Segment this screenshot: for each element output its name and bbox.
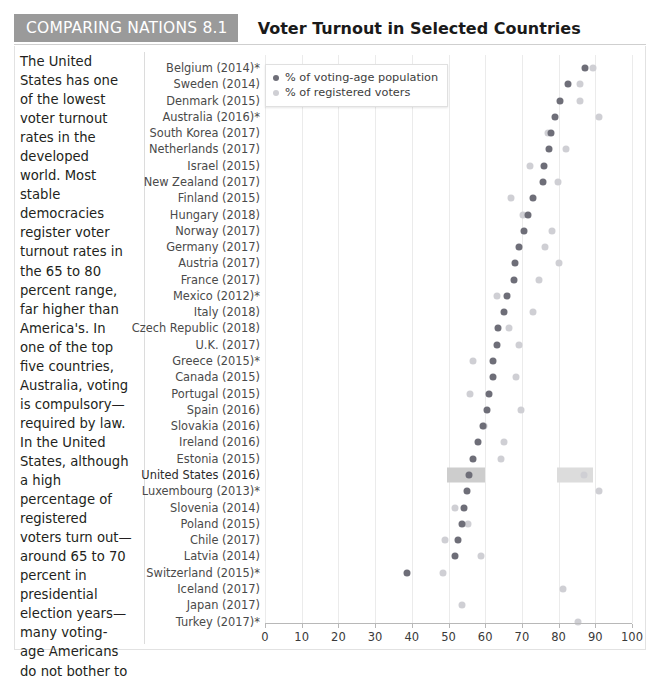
gridline-40 bbox=[412, 55, 413, 623]
data-point-rv bbox=[466, 390, 473, 397]
x-tick-20 bbox=[338, 624, 339, 628]
category-label: Poland (2015) bbox=[180, 517, 260, 531]
data-point-vap bbox=[511, 276, 518, 283]
data-point-vap bbox=[466, 472, 473, 479]
legend-label-vap: % of voting-age population bbox=[285, 70, 438, 85]
category-label: South Korea (2017) bbox=[149, 126, 260, 140]
x-tick-10 bbox=[302, 624, 303, 628]
data-point-rv bbox=[595, 113, 602, 120]
data-point-vap bbox=[547, 130, 554, 137]
data-point-rv bbox=[516, 341, 523, 348]
data-point-rv bbox=[554, 178, 561, 185]
category-label: United States (2016) bbox=[141, 468, 260, 482]
category-label: Portugal (2015) bbox=[171, 387, 260, 401]
x-tick-label-20: 20 bbox=[331, 630, 346, 644]
category-label: Hungary (2018) bbox=[170, 208, 260, 222]
data-point-rv bbox=[506, 325, 513, 332]
gridline-80 bbox=[559, 55, 560, 623]
data-point-vap bbox=[582, 65, 589, 72]
x-tick-40 bbox=[412, 624, 413, 628]
data-point-vap bbox=[524, 211, 531, 218]
data-point-rv bbox=[596, 488, 603, 495]
gridline-20 bbox=[338, 55, 339, 623]
x-tick-label-80: 80 bbox=[551, 630, 566, 644]
page-title: Voter Turnout in Selected Countries bbox=[238, 14, 646, 42]
category-label: Sweden (2014) bbox=[173, 77, 260, 91]
data-point-vap bbox=[489, 358, 496, 365]
category-label: Germany (2017) bbox=[166, 240, 260, 254]
category-label: Australia (2016)* bbox=[162, 110, 260, 124]
plot-area: Belgium (2014)*Sweden (2014)Denmark (201… bbox=[265, 55, 632, 647]
highlight-band-rv bbox=[557, 468, 594, 483]
data-point-vap bbox=[551, 113, 558, 120]
data-point-vap bbox=[565, 81, 572, 88]
data-point-rv bbox=[560, 585, 567, 592]
data-point-vap bbox=[489, 374, 496, 381]
category-label: Chile (2017) bbox=[190, 533, 260, 547]
data-point-vap bbox=[460, 504, 467, 511]
category-label: Canada (2015) bbox=[175, 370, 260, 384]
data-point-rv bbox=[576, 81, 583, 88]
data-point-vap bbox=[464, 488, 471, 495]
x-tick-label-30: 30 bbox=[368, 630, 383, 644]
commentary-body: The United States has one of the lowest … bbox=[20, 52, 132, 681]
data-point-rv bbox=[497, 455, 504, 462]
legend-item-rv: % of registered voters bbox=[273, 85, 438, 100]
x-tick-label-40: 40 bbox=[404, 630, 419, 644]
gridline-70 bbox=[522, 55, 523, 623]
category-label: Luxembourg (2013)* bbox=[142, 484, 260, 498]
data-point-vap bbox=[504, 292, 511, 299]
data-point-rv bbox=[439, 569, 446, 576]
legend-dot-vap-icon bbox=[273, 75, 279, 81]
data-point-rv bbox=[577, 97, 584, 104]
gridline-100 bbox=[632, 55, 633, 623]
data-point-rv bbox=[580, 472, 587, 479]
category-label: Japan (2017) bbox=[187, 598, 260, 612]
data-point-rv bbox=[459, 602, 466, 609]
header-divider bbox=[14, 44, 646, 45]
x-tick-60 bbox=[485, 624, 486, 628]
category-label: Switzerland (2015)* bbox=[146, 566, 260, 580]
category-label: Latvia (2014) bbox=[184, 549, 260, 563]
gridline-10 bbox=[302, 55, 303, 623]
comparing-nations-figure: COMPARING NATIONS 8.1 Voter Turnout in S… bbox=[0, 0, 660, 681]
x-tick-30 bbox=[375, 624, 376, 628]
x-tick-label-100: 100 bbox=[621, 630, 643, 644]
legend-dot-rv-icon bbox=[273, 90, 279, 96]
data-point-rv bbox=[555, 260, 562, 267]
data-point-vap bbox=[479, 423, 486, 430]
data-point-vap bbox=[539, 178, 546, 185]
data-point-vap bbox=[556, 97, 563, 104]
commentary-column: The United States has one of the lowest … bbox=[20, 52, 145, 644]
data-point-vap bbox=[495, 325, 502, 332]
data-point-rv bbox=[507, 195, 514, 202]
x-tick-80 bbox=[559, 624, 560, 628]
category-label: Belgium (2014)* bbox=[166, 61, 260, 75]
category-label: Spain (2016) bbox=[187, 403, 260, 417]
category-label: Israel (2015) bbox=[187, 159, 260, 173]
category-label: Norway (2017) bbox=[175, 224, 260, 238]
data-point-vap bbox=[511, 260, 518, 267]
x-tick-100 bbox=[632, 624, 633, 628]
data-point-rv bbox=[493, 292, 500, 299]
data-point-vap bbox=[530, 195, 537, 202]
data-point-rv bbox=[527, 162, 534, 169]
x-tick-label-70: 70 bbox=[515, 630, 530, 644]
data-point-rv bbox=[512, 374, 519, 381]
gridline-30 bbox=[375, 55, 376, 623]
gridline-0 bbox=[265, 55, 266, 623]
data-point-rv bbox=[562, 146, 569, 153]
data-point-vap bbox=[501, 309, 508, 316]
turnout-chart: Belgium (2014)*Sweden (2014)Denmark (201… bbox=[150, 50, 650, 650]
category-label: Ireland (2016) bbox=[179, 435, 260, 449]
data-point-vap bbox=[451, 553, 458, 560]
category-label: Mexico (2012)* bbox=[173, 289, 260, 303]
x-tick-70 bbox=[522, 624, 523, 628]
x-tick-label-10: 10 bbox=[294, 630, 309, 644]
data-point-vap bbox=[515, 244, 522, 251]
x-tick-50 bbox=[449, 624, 450, 628]
data-point-vap bbox=[470, 455, 477, 462]
category-label: Iceland (2017) bbox=[177, 582, 260, 596]
data-point-vap bbox=[403, 569, 410, 576]
category-label: Czech Republic (2018) bbox=[132, 321, 260, 335]
